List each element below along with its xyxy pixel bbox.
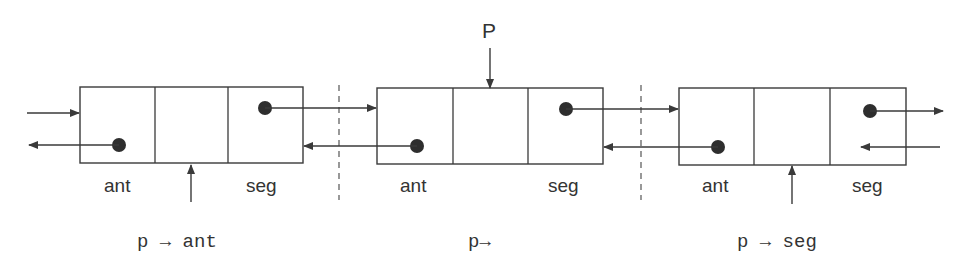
linked-list-diagram: ant seg p → ant ant seg p→ P ant seg p →… bbox=[0, 0, 972, 268]
seg-label: seg bbox=[852, 175, 883, 196]
node-caption: p→ bbox=[468, 231, 491, 253]
pointer-p-label: P bbox=[482, 19, 496, 42]
node-caption: p → ant bbox=[137, 231, 217, 253]
ant-label: ant bbox=[702, 175, 729, 196]
ant-label: ant bbox=[104, 175, 131, 196]
ant-label: ant bbox=[400, 175, 427, 196]
node-current: ant seg p→ bbox=[377, 88, 603, 253]
seg-label: seg bbox=[548, 175, 579, 196]
node-caption: p → seg bbox=[737, 231, 817, 253]
seg-label: seg bbox=[246, 175, 277, 196]
